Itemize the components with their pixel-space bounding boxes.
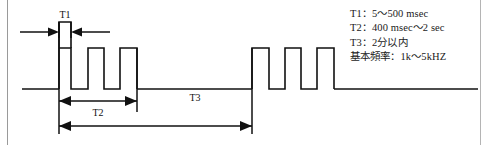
total-period-left-arrowhead	[59, 121, 71, 131]
spec-line-t1: T1：5～500 msec	[350, 7, 482, 21]
spec-line-t3: T3：2分以内	[350, 36, 482, 50]
label-t3: T3	[189, 92, 200, 103]
label-t1: T1	[59, 9, 70, 20]
label-t2: T2	[92, 107, 103, 118]
total-period-right-arrowhead	[240, 121, 252, 131]
spec-line-base-frequency: 基本頻率：1k～5kHZ	[350, 50, 482, 64]
pulse-tall-first	[59, 22, 71, 89]
t2-right-arrowhead	[125, 96, 137, 106]
t2-left-arrowhead	[59, 96, 71, 106]
burst-two-square-pulses	[252, 48, 334, 89]
t1-left-arrowhead	[48, 28, 59, 37]
t1-edge-ticks	[59, 22, 71, 38]
spec-line-t2: T2：400 msec～2 sec	[350, 21, 482, 35]
t1-right-arrowhead	[71, 28, 82, 37]
timing-diagram-page: T1 T2 T3 T1：5～500 msec T2：400 msec～2 sec…	[0, 0, 489, 145]
burst-one-square-pulses	[59, 48, 137, 89]
specification-list: T1：5～500 msec T2：400 msec～2 sec T3：2分以内 …	[350, 7, 482, 65]
